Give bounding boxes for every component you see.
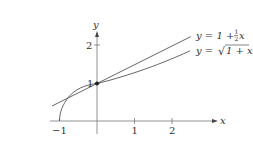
sqrt-curve	[60, 51, 191, 121]
x-axis-arrow-icon	[212, 119, 218, 123]
y-tick-label-1: 1	[87, 78, 93, 89]
sqrt-curve-label: y = √ 1 + x	[195, 45, 253, 58]
svg-text:1 + x: 1 + x	[226, 45, 253, 56]
y-axis-label: y	[92, 19, 99, 30]
frac-numerator: 1	[235, 28, 239, 35]
svg-text:y =: y =	[195, 45, 213, 56]
radical-icon: √	[218, 45, 226, 58]
tangent-line	[52, 37, 191, 106]
tangent-label-x: x	[239, 30, 245, 41]
frac-denominator: 2	[235, 35, 239, 42]
figure: y x −1 1 2 2 1 y = 1 + 1 2 x y = √ 1 + x	[0, 0, 253, 142]
y-tick-label-2: 2	[86, 40, 92, 51]
x-tick-label-2: 2	[169, 125, 175, 136]
x-axis-label: x	[220, 115, 226, 126]
tangency-point	[95, 82, 99, 86]
tangent-line-label: y = 1 + 1 2 x	[195, 28, 245, 42]
x-tick-label-neg1: −1	[52, 125, 67, 136]
y-axis-arrow-icon	[95, 31, 99, 37]
x-tick-label-1: 1	[132, 125, 138, 136]
svg-text:y = 1 +: y = 1 +	[195, 30, 234, 41]
